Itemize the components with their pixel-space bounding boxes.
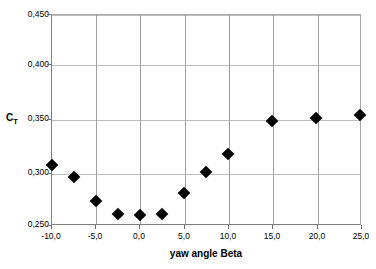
x-tick-label: 10,0 <box>208 231 248 241</box>
y-axis-tick-labels: 0,450 0,400 0,350 0,300 0,250 <box>0 0 49 269</box>
data-point <box>112 207 125 220</box>
gridline-vertical <box>229 15 230 224</box>
data-point <box>134 208 147 221</box>
gridline-horizontal <box>52 15 360 16</box>
y-tick-label: 0,350 <box>28 114 49 123</box>
x-tick-label: -10,0 <box>31 231 71 241</box>
x-tick-label: 20,0 <box>297 231 337 241</box>
y-tick-label: 0,300 <box>28 168 49 177</box>
y-axis-title: CT <box>6 112 18 127</box>
x-tick-mark <box>184 225 185 229</box>
chart-container: 0,450 0,400 0,350 0,300 0,250 CT <box>0 0 376 269</box>
data-point <box>200 165 213 178</box>
x-tick-mark <box>317 225 318 229</box>
y-tick-label: 0,250 <box>28 220 49 229</box>
x-tick-mark <box>361 225 362 229</box>
y-tick-label: 0,400 <box>28 60 49 69</box>
gridline-vertical <box>96 15 97 224</box>
x-tick-mark <box>95 225 96 229</box>
y-axis-title-subscript: T <box>13 117 18 126</box>
data-point <box>310 112 323 125</box>
x-tick-mark <box>139 225 140 229</box>
x-tick-mark <box>272 225 273 229</box>
data-point <box>222 148 235 161</box>
x-axis-title: yaw angle Beta <box>51 248 361 259</box>
plot-area <box>51 14 361 225</box>
x-tick-label: 15,0 <box>252 231 292 241</box>
x-tick-label: 0,0 <box>119 231 159 241</box>
x-tick-mark <box>228 225 229 229</box>
data-point <box>178 186 191 199</box>
x-tick-mark <box>51 225 52 229</box>
gridline-vertical <box>140 15 141 224</box>
x-tick-label: -5,0 <box>75 231 115 241</box>
x-tick-label: 5,0 <box>164 231 204 241</box>
data-point <box>156 207 169 220</box>
y-tick-label: 0,450 <box>28 10 49 19</box>
data-point <box>266 114 279 127</box>
x-tick-label: 25,0 <box>341 231 376 241</box>
gridline-horizontal <box>52 65 360 66</box>
data-point <box>68 171 81 184</box>
data-point <box>90 195 103 208</box>
